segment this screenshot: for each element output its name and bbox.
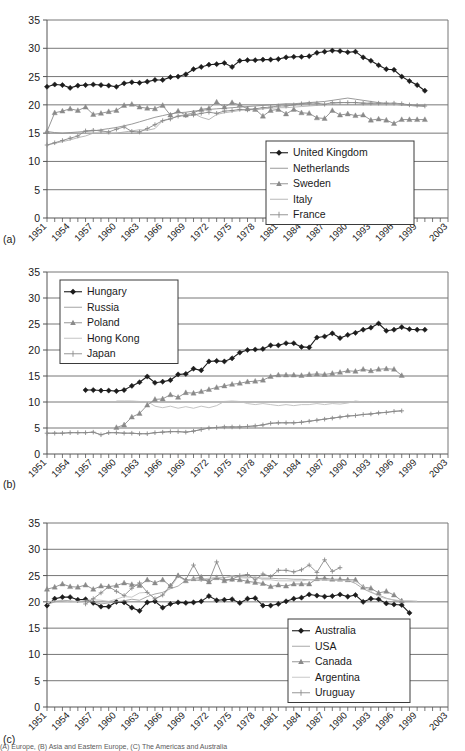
x-axis-tick-label-group: 1981 — [257, 457, 280, 480]
x-axis-tick-label: 1960 — [95, 710, 118, 733]
series-marker-sweden — [114, 108, 119, 113]
series-marker-poland — [345, 368, 350, 373]
series-line-sweden — [47, 102, 425, 131]
series-marker-poland — [168, 392, 173, 397]
series-marker-united-kingdom — [214, 62, 219, 67]
x-axis-tick-label-group: 1963 — [118, 457, 141, 480]
series-marker-australia — [330, 593, 335, 598]
x-axis-tick-label: 1951 — [26, 710, 49, 733]
series-marker-hungary — [222, 359, 227, 364]
y-axis-tick-label: 10 — [28, 396, 40, 408]
legend-label-poland: Poland — [87, 316, 120, 328]
x-axis-tick-label-group: 1978 — [234, 710, 257, 733]
series-marker-united-kingdom — [137, 80, 142, 85]
series-marker-australia — [314, 593, 319, 598]
x-axis-tick-label: 1981 — [257, 710, 280, 733]
series-marker-united-kingdom — [122, 81, 127, 86]
legend-label-canada: Canada — [315, 655, 352, 667]
x-axis-tick-label: 1957 — [72, 221, 95, 244]
x-axis-tick-label: 2003 — [427, 457, 450, 480]
series-marker-poland — [183, 390, 188, 395]
legend-label-hungary: Hungary — [87, 285, 127, 297]
series-marker-united-kingdom — [260, 57, 265, 62]
x-axis-tick-label: 1993 — [350, 710, 373, 733]
x-axis-tick-label: 1969 — [164, 221, 187, 244]
series-marker-united-kingdom — [314, 50, 319, 55]
series-marker-hungary — [415, 327, 420, 332]
series-marker-united-kingdom — [91, 82, 96, 87]
series-marker-hungary — [276, 343, 281, 348]
x-axis-tick-label: 1993 — [350, 457, 373, 480]
series-marker-canada — [98, 583, 103, 588]
legend-label-japan: Japan — [87, 347, 116, 359]
series-marker-united-kingdom — [145, 79, 150, 84]
series-marker-australia — [191, 600, 196, 605]
series-marker-united-kingdom — [376, 63, 381, 68]
x-axis-tick-label-group: 1954 — [49, 710, 72, 733]
panel-tag-a: (a) — [3, 233, 16, 245]
series-marker-united-kingdom — [68, 85, 73, 90]
legend-label-france: France — [293, 208, 326, 220]
x-axis-tick-label-group: 1954 — [49, 221, 72, 244]
series-marker-hungary — [106, 388, 111, 393]
series-marker-hungary — [268, 343, 273, 348]
series-marker-hungary — [91, 387, 96, 392]
x-axis-tick-label: 1978 — [234, 221, 257, 244]
x-axis-tick-label: 1978 — [234, 710, 257, 733]
series-marker-australia — [345, 594, 350, 599]
series-marker-canada — [83, 582, 88, 587]
series-marker-australia — [106, 604, 111, 609]
series-marker-united-kingdom — [345, 50, 350, 55]
series-marker-united-kingdom — [407, 78, 412, 83]
series-marker-hungary — [399, 325, 404, 330]
x-axis-tick-label-group: 1999 — [396, 710, 419, 733]
series-marker-australia — [245, 596, 250, 601]
series-marker-sweden — [330, 108, 335, 113]
x-axis-tick-label-group: 1975 — [211, 710, 234, 733]
series-marker-australia — [291, 596, 296, 601]
x-axis-tick-label-group: 1963 — [118, 710, 141, 733]
series-marker-poland — [361, 366, 366, 371]
x-axis-tick-label-group: 1951 — [26, 221, 49, 244]
chart-svg-b: 0510152025303519511954195719601963196619… — [0, 250, 465, 495]
series-marker-sweden — [214, 99, 219, 104]
chart-panel-a: 0510152025303519511954195719601963196619… — [0, 0, 465, 250]
x-axis-tick-label: 1972 — [188, 221, 211, 244]
series-line-poland — [116, 369, 401, 428]
series-marker-hungary — [122, 387, 127, 392]
x-axis-tick-label: 1996 — [373, 457, 396, 480]
x-axis-tick-label-group: 1966 — [141, 221, 164, 244]
series-marker-canada — [60, 581, 65, 586]
series-marker-hungary — [283, 341, 288, 346]
x-axis-tick-label: 1966 — [141, 221, 164, 244]
series-marker-hungary — [160, 379, 165, 384]
series-marker-hungary — [353, 330, 358, 335]
series-marker-hungary — [391, 327, 396, 332]
series-marker-united-kingdom — [44, 84, 49, 89]
series-marker-united-kingdom — [368, 58, 373, 63]
x-axis-tick-label-group: 1975 — [211, 221, 234, 244]
series-marker-hungary — [337, 335, 342, 340]
x-axis-tick-label-group: 1972 — [188, 710, 211, 733]
x-axis-tick-label-group: 1951 — [26, 710, 49, 733]
series-marker-hungary — [330, 331, 335, 336]
x-axis-tick-label: 1963 — [118, 221, 141, 244]
chart-panel-c: 0510152025303519511954195719601963196619… — [0, 495, 465, 751]
chart-panel-b: 0510152025303519511954195719601963196619… — [0, 250, 465, 495]
series-marker-united-kingdom — [253, 58, 258, 63]
series-marker-hungary — [322, 334, 327, 339]
series-marker-sweden — [345, 111, 350, 116]
x-axis-tick-label: 1975 — [211, 457, 234, 480]
series-line-russia — [47, 411, 402, 435]
figure-caption-strip: (A) Europe, (B) Asia and Eastern Europe,… — [0, 743, 465, 751]
x-axis-tick-label: 1975 — [211, 710, 234, 733]
series-marker-hungary — [214, 358, 219, 363]
series-marker-united-kingdom — [222, 60, 227, 65]
series-marker-australia — [368, 596, 373, 601]
x-axis-tick-label: 1969 — [164, 457, 187, 480]
legend-label-australia: Australia — [315, 624, 356, 636]
x-axis-tick-label: 1990 — [326, 710, 349, 733]
y-axis-tick-label: 5 — [34, 184, 40, 196]
series-marker-united-kingdom — [322, 49, 327, 54]
series-marker-australia — [68, 595, 73, 600]
